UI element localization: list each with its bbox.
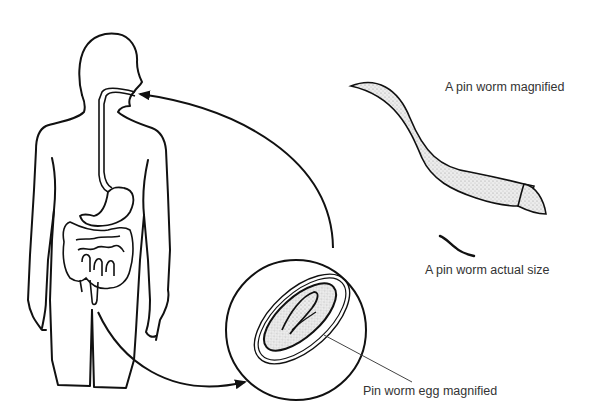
label-worm-actual-size: A pin worm actual size xyxy=(425,263,549,277)
pinworm-diagram xyxy=(0,0,608,418)
egg-magnified xyxy=(226,258,366,400)
label-worm-magnified: A pin worm magnified xyxy=(445,80,565,94)
label-egg-magnified: Pin worm egg magnified xyxy=(363,384,497,398)
worm-magnified xyxy=(351,83,546,214)
human-body xyxy=(28,34,170,388)
intestines xyxy=(63,222,133,305)
worm-actual-size xyxy=(440,236,474,256)
arrow-body-to-egg xyxy=(98,312,245,386)
stomach xyxy=(80,187,133,226)
